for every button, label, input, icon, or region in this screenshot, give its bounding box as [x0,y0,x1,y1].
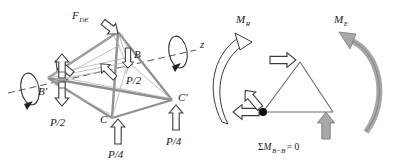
vertex-label-b: B [134,48,141,60]
force-label-p-quarter-cprime: P/4 [165,135,182,147]
engineering-diagram: z [0,0,400,165]
force-label-p-half-b: P/2 [125,74,142,86]
moment-label-me: ME [333,13,349,28]
tetrahedron-free-body: z [8,9,205,160]
vertex-label-cprime: C' [178,91,188,103]
moment-balance-free-body: MR ME ΣMB [213,13,379,155]
force-arrow-cprime-up [169,105,183,130]
support-arrow-up [317,112,334,139]
vertex-label-bprime: B' [38,85,48,97]
moment-label-mr: MR [235,13,251,28]
rotation-indicator-right [166,35,189,72]
moment-arrow-me [339,32,379,132]
force-label-fde: FDE [71,9,89,24]
vertex-label-c: C [100,113,108,125]
force-label-p-half-bprime: P/2 [49,116,66,128]
force-label-p-quarter-c: P/4 [107,148,124,160]
load-arrow-top-right [270,53,296,68]
triangle-body [263,62,333,112]
edge-c-cprime [112,100,172,118]
axis-label-z: z [199,38,205,50]
force-arrow-c-up [111,119,125,144]
moment-sum-equation: ΣMB−B= 0 [258,142,299,155]
pivot-node [259,108,267,116]
figure-canvas: z [0,0,400,165]
